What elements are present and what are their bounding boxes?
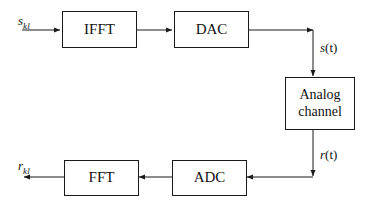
block-ifft-label: IFFT (84, 21, 115, 38)
label-receive-signal: r(t) (320, 147, 337, 163)
block-dac-label: DAC (196, 21, 228, 38)
block-fft-label: FFT (89, 169, 115, 186)
block-analog-channel[interactable]: Analog channel (285, 77, 355, 130)
label-transmit-signal-arg: (t) (325, 40, 337, 55)
label-output-signal: rkl (18, 158, 30, 176)
block-analog-channel-label-line2: channel (298, 104, 342, 120)
block-ifft[interactable]: IFFT (62, 11, 137, 48)
label-output-signal-subscript: kl (23, 166, 30, 176)
block-adc[interactable]: ADC (172, 160, 247, 196)
block-adc-label: ADC (194, 169, 226, 186)
label-input-signal: skl (18, 13, 30, 31)
block-analog-channel-label-line1: Analog (299, 87, 340, 103)
label-transmit-signal: s(t) (320, 40, 337, 56)
label-input-signal-subscript: kl (23, 21, 30, 31)
block-dac[interactable]: DAC (174, 11, 249, 48)
block-diagram: IFFT DAC Analog channel ADC FFT skl s(t)… (0, 0, 369, 215)
block-fft[interactable]: FFT (64, 160, 139, 196)
label-receive-signal-arg: (t) (325, 147, 337, 162)
